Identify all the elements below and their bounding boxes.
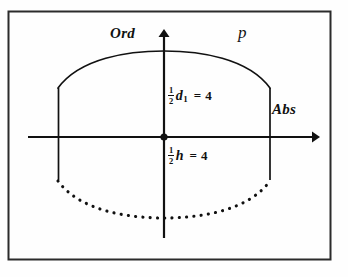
ordinate-axis-arrowhead <box>159 29 170 37</box>
value-4: 4 <box>205 88 212 104</box>
figure-container: Ord Abs p 1 2 d 1 = 4 1 2 h = 4 <box>0 0 348 277</box>
fraction-one-half: 1 2 <box>168 146 174 166</box>
value-4: 4 <box>201 148 208 164</box>
annotation-half-d1: 1 2 d 1 = 4 <box>168 86 212 106</box>
abscissa-axis-label: Abs <box>272 102 296 117</box>
fraction-numerator: 1 <box>168 86 174 95</box>
equals-sign: = <box>190 148 197 164</box>
fraction-denominator: 2 <box>168 95 174 105</box>
figure-canvas <box>0 0 348 277</box>
fraction-numerator: 1 <box>168 146 174 155</box>
origin-point <box>160 133 167 140</box>
equals-sign: = <box>194 88 201 104</box>
ordinate-axis-label: Ord <box>110 26 135 41</box>
fraction-denominator: 2 <box>168 155 174 165</box>
variable-h: h <box>176 148 184 164</box>
subscript-1: 1 <box>183 94 188 104</box>
variable-d: d <box>176 88 183 104</box>
annotation-half-h: 1 2 h = 4 <box>168 146 207 166</box>
abscissa-axis-arrowhead <box>312 132 320 143</box>
figure-border <box>9 12 331 260</box>
figure-title-label: p <box>238 24 247 41</box>
fraction-one-half: 1 2 <box>168 86 174 106</box>
